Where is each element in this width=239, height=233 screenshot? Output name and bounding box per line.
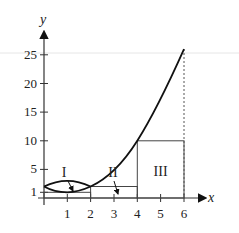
region-label-II: II [108, 165, 118, 180]
y-tick-10: 10 [24, 133, 37, 148]
x-tick-labels: 1 2 3 4 5 6 [64, 206, 188, 221]
arrow-II [114, 181, 118, 194]
x-tick-2: 2 [87, 206, 94, 221]
region-label-I: I [62, 165, 67, 180]
region-label-III: III [154, 164, 168, 179]
y-tick-labels: 1 5 10 15 20 25 [24, 47, 37, 199]
x-tick-4: 4 [134, 206, 141, 221]
y-tick-25: 25 [24, 47, 37, 62]
y-tick-5: 5 [31, 161, 38, 176]
x-axis-label: x [207, 190, 215, 205]
y-axis-label: y [38, 12, 47, 27]
chart: x y 1 2 3 4 5 6 1 5 10 15 20 25 [0, 0, 239, 233]
x-tick-3: 3 [111, 206, 118, 221]
x-tick-5: 5 [157, 206, 164, 221]
y-tick-15: 15 [24, 104, 37, 119]
x-tick-6: 6 [181, 206, 188, 221]
y-tick-20: 20 [24, 76, 37, 91]
arrow-I [68, 181, 73, 191]
y-tick-1: 1 [31, 184, 38, 199]
x-tick-1: 1 [64, 206, 71, 221]
